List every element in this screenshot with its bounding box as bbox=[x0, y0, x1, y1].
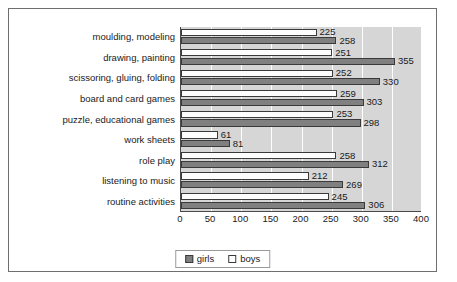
bar-value-label: 312 bbox=[372, 159, 388, 169]
bar-value-label: 298 bbox=[364, 118, 380, 128]
bar-girls[interactable]: 312 bbox=[181, 161, 421, 168]
bar-rect-girls bbox=[181, 119, 361, 126]
category-label: role play bbox=[139, 156, 175, 166]
bar-rect-boys bbox=[181, 70, 333, 77]
bar-boys[interactable]: 259 bbox=[181, 90, 421, 97]
legend-item-girls[interactable]: girls bbox=[185, 254, 214, 264]
category-label: moulding, modeling bbox=[93, 33, 175, 43]
bar-girls[interactable]: 258 bbox=[181, 37, 421, 44]
x-tick-label: 50 bbox=[205, 214, 216, 224]
bar-group: 225258 bbox=[181, 27, 421, 48]
bar-rect-boys bbox=[181, 152, 336, 159]
bar-girls[interactable]: 81 bbox=[181, 140, 421, 147]
bar-value-label: 81 bbox=[233, 139, 244, 149]
bar-rect-boys bbox=[181, 131, 218, 138]
bar-rect-girls bbox=[181, 58, 395, 65]
bar-value-label: 303 bbox=[367, 98, 383, 108]
bar-rect-girls bbox=[181, 181, 343, 188]
bar-rect-boys bbox=[181, 29, 317, 36]
bar-value-label: 212 bbox=[312, 171, 328, 181]
bar-girls[interactable]: 355 bbox=[181, 58, 421, 65]
category-label: board and card games bbox=[80, 94, 175, 104]
x-tick-label: 200 bbox=[293, 214, 309, 224]
bar-value-label: 355 bbox=[398, 57, 414, 67]
category-label: scissoring, gluing, folding bbox=[69, 74, 175, 84]
bar-group: 253298 bbox=[181, 109, 421, 130]
bar-rect-girls bbox=[181, 99, 364, 106]
legend-label-boys: boys bbox=[240, 254, 260, 264]
bar-group: 251355 bbox=[181, 48, 421, 69]
bar-rect-girls bbox=[181, 161, 369, 168]
bar-value-label: 306 bbox=[368, 200, 384, 210]
bar-group: 259303 bbox=[181, 89, 421, 110]
bar-value-label: 252 bbox=[336, 69, 352, 79]
bar-value-label: 269 bbox=[346, 180, 362, 190]
bar-rect-girls bbox=[181, 140, 230, 147]
bar-girls[interactable]: 303 bbox=[181, 99, 421, 106]
category-label: listening to music bbox=[102, 176, 175, 186]
gridline bbox=[422, 27, 423, 211]
category-label: puzzle, educational games bbox=[63, 115, 176, 125]
bar-rect-girls bbox=[181, 37, 336, 44]
bar-value-label: 225 bbox=[320, 27, 336, 37]
x-tick-label: 300 bbox=[353, 214, 369, 224]
bar-girls[interactable]: 306 bbox=[181, 202, 421, 209]
bar-rect-boys bbox=[181, 193, 329, 200]
chart-frame: moulding, modelingdrawing, paintingsciss… bbox=[8, 8, 437, 272]
legend-item-boys[interactable]: boys bbox=[228, 254, 260, 264]
bar-boys[interactable]: 245 bbox=[181, 193, 421, 200]
bar-rect-girls bbox=[181, 202, 365, 209]
x-tick-label: 0 bbox=[177, 214, 182, 224]
category-label: work sheets bbox=[124, 135, 175, 145]
bar-girls[interactable]: 330 bbox=[181, 78, 421, 85]
bar-rect-boys bbox=[181, 90, 337, 97]
legend-swatch-boys-icon bbox=[228, 255, 236, 263]
bar-boys[interactable]: 225 bbox=[181, 29, 421, 36]
bar-boys[interactable]: 253 bbox=[181, 111, 421, 118]
chart-legend: girls boys bbox=[175, 250, 271, 268]
bar-value-label: 61 bbox=[221, 130, 232, 140]
bar-group: 252330 bbox=[181, 68, 421, 89]
category-label: routine activities bbox=[107, 197, 175, 207]
bar-value-label: 245 bbox=[332, 192, 348, 202]
bar-boys[interactable]: 212 bbox=[181, 172, 421, 179]
x-tick-label: 400 bbox=[413, 214, 429, 224]
bar-girls[interactable]: 298 bbox=[181, 119, 421, 126]
legend-label-girls: girls bbox=[197, 254, 214, 264]
category-axis-labels: moulding, modelingdrawing, paintingsciss… bbox=[9, 27, 175, 212]
bar-girls[interactable]: 269 bbox=[181, 181, 421, 188]
bar-rect-boys bbox=[181, 49, 332, 56]
bar-group: 212269 bbox=[181, 171, 421, 192]
bar-value-label: 251 bbox=[335, 48, 351, 58]
bar-value-label: 258 bbox=[339, 36, 355, 46]
bar-group: 258312 bbox=[181, 150, 421, 171]
x-tick-label: 150 bbox=[262, 214, 278, 224]
bar-rect-boys bbox=[181, 172, 309, 179]
bar-value-label: 259 bbox=[340, 89, 356, 99]
legend-swatch-girls-icon bbox=[185, 255, 193, 263]
bar-rect-girls bbox=[181, 78, 380, 85]
x-tick-label: 350 bbox=[383, 214, 399, 224]
plot-area: 2252582513552523302593032532986181258312… bbox=[180, 27, 421, 212]
bar-group: 6181 bbox=[181, 130, 421, 151]
bar-value-label: 330 bbox=[383, 77, 399, 87]
category-label: drawing, painting bbox=[103, 53, 175, 63]
bar-boys[interactable]: 251 bbox=[181, 49, 421, 56]
bar-group: 245306 bbox=[181, 191, 421, 212]
x-tick-label: 100 bbox=[232, 214, 248, 224]
bar-boys[interactable]: 61 bbox=[181, 131, 421, 138]
bar-value-label: 258 bbox=[339, 151, 355, 161]
bar-rect-boys bbox=[181, 111, 333, 118]
chart-figure: moulding, modelingdrawing, paintingsciss… bbox=[0, 0, 457, 282]
bar-value-label: 253 bbox=[336, 110, 352, 120]
x-tick-label: 250 bbox=[323, 214, 339, 224]
x-axis-tick-labels: 050100150200250300350400 bbox=[180, 214, 421, 230]
